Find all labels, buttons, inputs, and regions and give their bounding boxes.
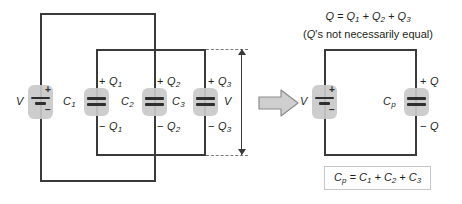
capacitor-cp-negative-charge-label: − Q: [420, 120, 439, 132]
capacitor-cp-highlight: [404, 88, 429, 116]
capacitor-c1-positive-charge-label: + Q1: [99, 75, 122, 89]
battery-minus-sign-left: −: [45, 104, 51, 115]
capacitor-c1-bottom-plate: [87, 103, 106, 106]
battery-plus-sign-right: +: [329, 84, 335, 95]
capacitor-cp-top-plate: [407, 97, 426, 100]
left-outer-loop-top-wire: [40, 13, 156, 15]
capacitor-c3-bottom-plate: [196, 103, 215, 106]
capacitor-c2-highlight: [142, 88, 167, 116]
left-inner-loop-bottom-wire: [96, 154, 206, 156]
capacitor-c2-bottom-plate: [145, 103, 164, 106]
battery-plus-sign-left: +: [45, 84, 51, 95]
capacitor-cp-label: Cp: [383, 95, 396, 109]
charge-sum-line-2: (Q's not necessarily equal): [288, 27, 448, 41]
equivalent-to-arrow-icon: [258, 88, 300, 122]
battery-positive-plate-right: [315, 97, 334, 99]
capacitor-c1-top-plate: [87, 97, 106, 100]
left-outer-loop-bottom-wire: [40, 180, 156, 182]
left-inner-loop-top-wire: [96, 49, 206, 51]
capacitor-c1-negative-charge-label: − Q1: [99, 120, 122, 134]
voltage-bracket-line: [241, 49, 242, 155]
voltage-bracket-arrowhead-bottom: [238, 149, 246, 155]
charge-sum-line-1: Q = Q1 + Q2 + Q3: [288, 9, 448, 27]
equivalent-capacitance-formula-box: Cp = C1 + C2 + C3: [324, 166, 431, 190]
battery-voltage-label-right: V: [300, 95, 308, 107]
right-loop-bottom-wire: [324, 154, 417, 156]
voltage-bracket-arrowhead-top: [238, 49, 246, 55]
capacitor-c3-highlight: [193, 88, 218, 116]
capacitor-c2-label: C2: [121, 95, 134, 109]
figure-canvas: + − V C1 + Q1 − Q1 C2 + Q2 − Q2 C3 + Q3 …: [0, 0, 462, 204]
capacitor-c3-negative-charge-label: − Q3: [208, 120, 231, 134]
capacitor-cp-positive-charge-label: + Q: [420, 75, 439, 87]
capacitor-cp-bottom-plate: [407, 103, 426, 106]
capacitor-c1-label: C1: [63, 95, 76, 109]
capacitor-c2-top-plate: [145, 97, 164, 100]
voltage-bracket-bottom-dashed-line: [206, 155, 248, 156]
charge-sum-equation: Q = Q1 + Q2 + Q3 (Q's not necessarily eq…: [288, 9, 448, 41]
right-loop-top-wire: [324, 49, 417, 51]
battery-positive-plate-left: [31, 97, 50, 99]
voltage-bracket-label: V: [224, 95, 232, 107]
capacitor-c3-top-plate: [196, 97, 215, 100]
capacitor-c3-label: C3: [172, 95, 185, 109]
capacitor-c2-positive-charge-label: + Q2: [157, 75, 180, 89]
capacitor-c2-negative-charge-label: − Q2: [157, 120, 180, 134]
capacitor-c3-positive-charge-label: + Q3: [208, 75, 231, 89]
battery-voltage-label-left: V: [16, 95, 24, 107]
capacitor-c1-highlight: [84, 88, 109, 116]
battery-minus-sign-right: −: [329, 104, 335, 115]
